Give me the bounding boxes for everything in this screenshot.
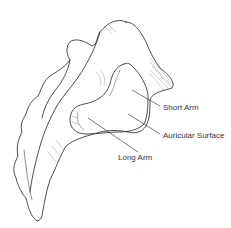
label-short-arm: Short Arm [163, 104, 199, 112]
label-long-arm: Long Arm [118, 154, 152, 162]
ridge-line-2 [42, 60, 70, 118]
leader-short-arm [132, 90, 160, 106]
sacrum-illustration [0, 0, 231, 228]
leader-long-arm [88, 118, 138, 152]
label-auricular-surface: Auricular Surface [163, 132, 224, 140]
leader-auricular-surface [128, 114, 160, 134]
ridge-line [30, 32, 100, 192]
auricular-surface-outline [70, 63, 148, 134]
